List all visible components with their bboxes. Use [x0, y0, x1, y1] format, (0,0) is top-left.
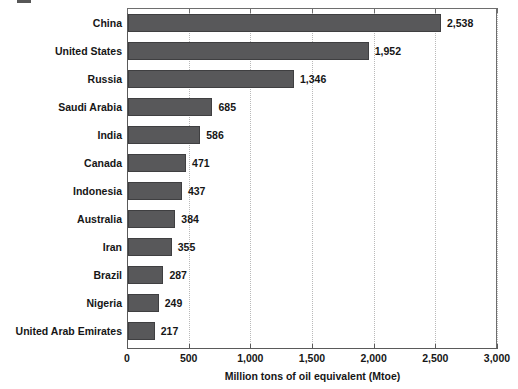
tick-mark-bottom — [374, 344, 375, 349]
x-axis-title: Million tons of oil equivalent (Mtoe) — [127, 370, 498, 382]
x-tick-label: 1,000 — [237, 352, 263, 364]
bar-chart: China2,538United States1,952Russia1,346S… — [0, 0, 518, 389]
bar — [128, 14, 441, 32]
category-label: Saudi Arabia — [58, 98, 122, 116]
bar-value-label: 355 — [178, 238, 196, 256]
bar-row: Iran355 — [0, 238, 518, 256]
tick-mark-bottom — [250, 344, 251, 349]
bar-value-label: 471 — [192, 154, 210, 172]
tick-mark-bottom — [497, 344, 498, 349]
bar — [128, 294, 159, 312]
x-tick-label: 3,000 — [484, 352, 510, 364]
tick-mark-bottom — [312, 344, 313, 349]
bar-row: Indonesia437 — [0, 182, 518, 200]
tick-mark-top — [127, 8, 128, 13]
tick-mark-top — [497, 8, 498, 13]
bar-row: United States1,952 — [0, 42, 518, 60]
x-tick-label: 1,500 — [299, 352, 325, 364]
x-tick-label: 500 — [180, 352, 198, 364]
bar — [128, 154, 186, 172]
bar-value-label: 2,538 — [447, 14, 473, 32]
x-tick-label: 2,000 — [361, 352, 387, 364]
category-label: Indonesia — [73, 182, 122, 200]
bar-value-label: 1,952 — [375, 42, 401, 60]
tick-mark-bottom — [189, 344, 190, 349]
tick-mark-top — [312, 8, 313, 13]
bar — [128, 322, 155, 340]
tick-mark-top — [435, 8, 436, 13]
category-label: India — [97, 126, 122, 144]
category-label: United Arab Emirates — [16, 322, 122, 340]
bar — [128, 238, 172, 256]
bar-value-label: 586 — [206, 126, 224, 144]
bar-value-label: 437 — [188, 182, 206, 200]
tick-mark-top — [189, 8, 190, 13]
category-label: United States — [55, 42, 122, 60]
category-label: Brazil — [93, 266, 122, 284]
bar-row: India586 — [0, 126, 518, 144]
category-label: Russia — [88, 70, 122, 88]
bar-row: Russia1,346 — [0, 70, 518, 88]
bar — [128, 126, 200, 144]
category-label: Canada — [84, 154, 122, 172]
category-label: China — [93, 14, 122, 32]
tick-mark-top — [374, 8, 375, 13]
category-label: Iran — [103, 238, 122, 256]
bar — [128, 210, 175, 228]
x-tick-label: 2,500 — [422, 352, 448, 364]
bar — [128, 182, 182, 200]
bar-row: Canada471 — [0, 154, 518, 172]
bar — [128, 266, 163, 284]
bar — [128, 42, 369, 60]
category-label: Australia — [77, 210, 122, 228]
bar — [128, 70, 294, 88]
bar-value-label: 249 — [165, 294, 183, 312]
bar-value-label: 384 — [181, 210, 199, 228]
bar-value-label: 685 — [218, 98, 236, 116]
bar-row: China2,538 — [0, 14, 518, 32]
bar-value-label: 217 — [161, 322, 179, 340]
tick-mark-top — [250, 8, 251, 13]
category-label: Nigeria — [86, 294, 122, 312]
bar-value-label: 287 — [169, 266, 187, 284]
tick-mark-bottom — [127, 344, 128, 349]
bar-row: Nigeria249 — [0, 294, 518, 312]
x-tick-label: 0 — [124, 352, 130, 364]
bar-value-label: 1,346 — [300, 70, 326, 88]
bar-row: Saudi Arabia685 — [0, 98, 518, 116]
bar — [128, 98, 212, 116]
tick-mark-bottom — [435, 344, 436, 349]
bar-row: United Arab Emirates217 — [0, 322, 518, 340]
bar-row: Brazil287 — [0, 266, 518, 284]
bar-row: Australia384 — [0, 210, 518, 228]
scan-artifact — [17, 0, 31, 3]
